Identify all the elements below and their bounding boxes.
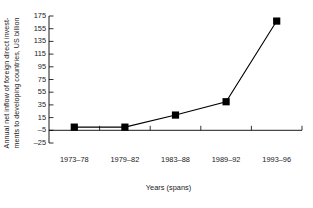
data-point-marker: [121, 124, 128, 131]
x-axis-title-text: Years (spans): [146, 183, 191, 192]
y-axis-tick-label: 95: [38, 63, 46, 71]
y-axis-tick-label: 135: [34, 37, 46, 45]
y-axis-tick-label: 155: [34, 25, 46, 33]
y-axis-tick-label: –5: [38, 126, 46, 134]
y-axis-tick-label: –25: [34, 139, 46, 147]
x-axis-tick-label: 1989–92: [212, 155, 241, 164]
plot-area: [49, 16, 302, 143]
x-axis-title: Years (spans): [0, 183, 313, 192]
data-line: [74, 21, 276, 127]
plot-svg: [49, 16, 302, 143]
y-axis-tick-label: 175: [34, 12, 46, 20]
data-point-marker: [71, 124, 78, 131]
y-axis-tick-label: 15: [38, 114, 46, 122]
x-axis-tick-label: 1993–96: [262, 155, 291, 164]
x-axis-tick-labels: 1973–781979–821983–881989–921993–96: [49, 155, 302, 169]
y-axis-tick-label: 55: [38, 88, 46, 96]
x-axis-tick-label: 1983–88: [161, 155, 190, 164]
data-point-marker: [172, 111, 179, 118]
y-axis-tick-label: 115: [34, 50, 46, 58]
line-chart: Annual net inflow of foreign direct inve…: [0, 0, 313, 208]
y-axis-tick-labels: 1751551351159575553515–5–25: [21, 0, 46, 208]
data-point-marker: [223, 98, 230, 105]
y-axis-tick-label: 75: [38, 76, 46, 84]
x-axis-tick-label: 1973–78: [60, 155, 89, 164]
data-point-marker: [273, 17, 280, 24]
x-axis-tick-label: 1979–82: [111, 155, 140, 164]
y-axis-title-line-1: Annual net inflow of foreign direct inve…: [3, 17, 13, 148]
y-axis-tick-label: 35: [38, 101, 46, 109]
